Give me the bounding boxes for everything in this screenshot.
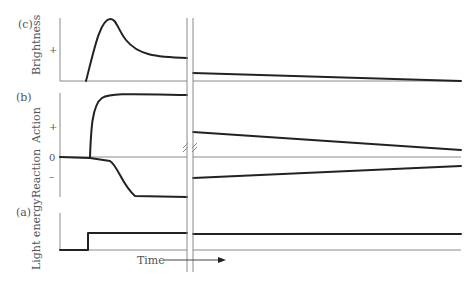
action-curve-decay [193,132,461,150]
panel-c-brightness: (c) Brightness + [18,14,461,81]
reaction-axis-label: Reaction [30,149,43,198]
panel-a-light-energy: (a) Light energy [16,198,461,270]
reaction-curve-onset [60,157,187,197]
zero-tick: 0 [49,152,55,163]
action-axis-label: Action [30,107,43,144]
brightness-axis-label: Brightness [30,14,43,75]
reaction-minus-tick: – [49,171,54,182]
brightness-curve-adaptation [193,73,461,81]
light-energy-axis-label: Light energy [30,198,43,270]
action-plus-tick: + [49,121,57,132]
time-axis: Time [137,254,226,267]
sensation-timing-diagram: (c) Brightness + (b) Action Reaction + 0… [0,0,474,289]
brightness-curve-onset [86,19,187,81]
panel-a-tag: (a) [16,206,31,219]
panel-b-tag: (b) [16,91,32,104]
light-step-onset [60,233,187,250]
brightness-plus-tick: + [49,44,57,55]
time-arrow-head-icon [218,257,226,263]
reaction-curve-decay [193,166,461,178]
panel-b-action-reaction: (b) Action Reaction + 0 – [16,91,461,198]
time-axis-label: Time [137,254,165,267]
axis-break-marks [183,143,197,152]
action-curve-onset [90,94,187,157]
